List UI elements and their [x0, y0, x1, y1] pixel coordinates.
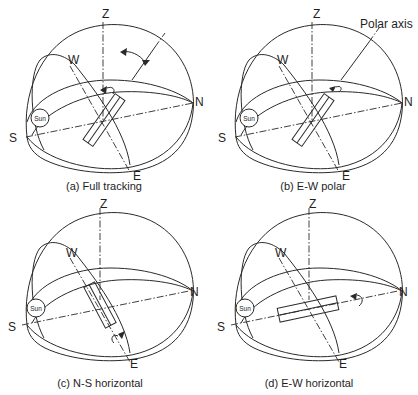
label-n: N: [399, 285, 408, 299]
label-z: Z: [309, 197, 316, 211]
caption-d: (d) E-W horizontal: [265, 377, 354, 389]
label-s: S: [217, 320, 225, 334]
caption-a: (a) Full tracking: [66, 180, 142, 192]
label-z: Z: [102, 7, 109, 21]
label-w: W: [277, 53, 289, 67]
w-e-axis: [70, 66, 130, 172]
polar-axis: [341, 42, 369, 80]
label-z: Z: [313, 7, 320, 21]
label-polar-axis: Polar axis: [360, 17, 413, 31]
panel-d-ew-horizontal: Sun Z W N S E (d) E-W horizontal: [217, 197, 408, 389]
label-n: N: [195, 95, 204, 109]
panel-b-ew-polar: Sun Z Polar axis W N S E (b) E-W polar: [218, 7, 413, 192]
label-z: Z: [100, 197, 107, 211]
s-n-axis: [26, 103, 193, 137]
label-w: W: [66, 246, 78, 260]
label-w: W: [275, 246, 287, 260]
caption-b: (b) E-W polar: [280, 180, 346, 192]
label-s: S: [8, 320, 16, 334]
label-e: E: [130, 357, 138, 371]
label-n: N: [190, 285, 199, 299]
caption-c: (c) N-S horizontal: [57, 377, 143, 389]
solar-tracking-diagram: Sun Z W N S E (a) Full tracking Sun Z Po…: [0, 0, 418, 395]
svg-text:Sun: Sun: [34, 115, 46, 122]
panel-c-ns-horizontal: Sun Z W N S E (c) N-S horizontal: [8, 197, 199, 389]
label-n: N: [404, 95, 413, 109]
svg-text:Sun: Sun: [243, 115, 255, 122]
label-e: E: [339, 357, 347, 371]
svg-text:Sun: Sun: [30, 305, 42, 312]
label-s: S: [218, 131, 226, 145]
svg-text:Sun: Sun: [239, 305, 251, 312]
label-w: W: [68, 53, 80, 67]
label-s: S: [9, 131, 17, 145]
panel-a-full-tracking: Sun Z W N S E (a) Full tracking: [9, 7, 204, 192]
